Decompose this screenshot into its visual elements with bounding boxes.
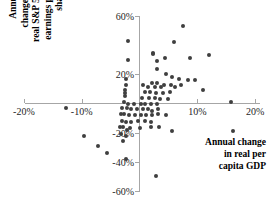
data-point [144,113,148,117]
data-point [150,113,154,117]
data-point [133,113,137,117]
x-axis-tick-label: -20% [13,106,35,117]
data-point [193,78,197,82]
data-point [181,24,185,28]
x-axis-tick-label: -10% [71,106,93,117]
data-point [162,83,166,87]
data-point [148,90,152,94]
data-point [123,94,127,98]
x-axis-line [25,103,260,104]
data-point [172,40,176,44]
data-point [123,91,127,95]
data-point [129,120,133,124]
x-axis-tick [82,99,83,103]
data-point [64,106,68,110]
data-point [96,144,100,148]
y-axis-tick [135,16,139,17]
data-point [155,67,159,71]
data-point [146,85,150,89]
data-point [146,107,150,111]
y-axis-tick [135,191,139,192]
data-point [126,58,130,62]
y-axis-tick-label: 60% [116,11,134,22]
data-point [170,129,174,133]
y-axis-tick-label: -20% [112,127,134,138]
data-point [149,125,153,129]
data-point [186,78,190,82]
data-point [143,119,147,123]
x-axis-tick-label: 20% [246,106,264,117]
data-point [151,51,155,55]
data-point [207,53,211,57]
data-point [124,120,128,124]
data-point [188,56,192,60]
data-point [129,107,133,111]
y-axis-tick [135,162,139,163]
x-axis-tick-label: 10% [188,106,206,117]
data-point [164,72,168,76]
data-point [124,83,128,87]
data-point [151,52,155,56]
data-point [150,109,154,113]
data-point [166,97,170,101]
data-point [82,134,86,138]
y-axis-title-text: Annual change in real S&P 500 earnings p… [8,0,66,81]
data-point [158,97,162,101]
data-point [173,85,177,89]
y-axis-tick [135,133,139,134]
data-point [119,112,123,116]
data-point [157,125,161,129]
data-point [161,91,165,95]
data-point [153,96,157,100]
y-axis-tick-label: -60% [112,185,134,196]
data-point [159,85,163,89]
data-point [169,83,173,87]
data-point [168,90,172,94]
data-point [140,96,144,100]
data-point [127,113,131,117]
y-axis-tick-label: -40% [112,156,134,167]
data-point [177,77,181,81]
data-point [147,96,151,100]
data-point [143,90,147,94]
data-point [122,112,126,116]
data-point [155,81,159,85]
scatter-chart: -20%-10%10%20%60%20%-20%-40%-60% Annual … [0,0,274,209]
x-axis-tick [197,99,198,103]
data-point [201,88,205,92]
data-point [150,81,154,85]
y-axis-tick-label: 20% [116,69,134,80]
data-point [149,120,153,124]
x-axis-title: Annual change in real per capita GDP [154,136,266,172]
data-point [156,112,160,116]
data-point [170,75,174,79]
y-axis-line [139,16,140,192]
data-point [120,119,124,123]
data-point [231,129,235,133]
data-point [120,106,124,110]
data-point [155,59,159,63]
data-point [154,91,158,95]
data-point [121,139,125,143]
data-point [153,85,157,89]
data-point [164,113,168,117]
data-point [141,83,145,87]
x-axis-tick [24,99,25,103]
data-point [141,107,145,111]
data-point [156,107,160,111]
data-point [105,151,109,155]
data-point [154,174,158,178]
data-point [163,56,167,60]
x-axis-tick [255,99,256,103]
y-axis-tick [135,74,139,75]
data-point [123,88,127,92]
data-point [179,83,183,87]
data-point [125,106,129,110]
data-point [126,39,130,43]
y-axis-title: Annual change in real S&P 500 earnings p… [8,0,66,81]
